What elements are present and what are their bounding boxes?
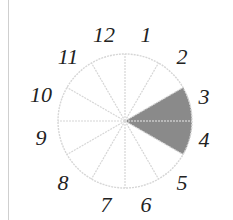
sector-label-5: 5 xyxy=(177,170,188,195)
spoke xyxy=(92,121,126,179)
sector-label-2: 2 xyxy=(177,44,188,69)
sector-label-7: 7 xyxy=(101,192,113,217)
sector-label-9: 9 xyxy=(36,125,47,150)
sector-label-1: 1 xyxy=(141,22,152,47)
sector-label-11: 11 xyxy=(58,44,78,69)
sector-label-4: 4 xyxy=(199,127,210,152)
sector-label-3: 3 xyxy=(198,84,210,109)
sector-circle-diagram: 1 2 3 4 5 6 7 8 9 10 11 12 xyxy=(0,0,233,220)
spoke xyxy=(67,88,125,122)
spoke xyxy=(92,63,126,121)
spoke xyxy=(67,121,125,155)
sector-label-12: 12 xyxy=(93,22,115,47)
sector-label-6: 6 xyxy=(141,192,152,217)
sector-label-8: 8 xyxy=(58,170,69,195)
sector-label-10: 10 xyxy=(30,82,52,107)
